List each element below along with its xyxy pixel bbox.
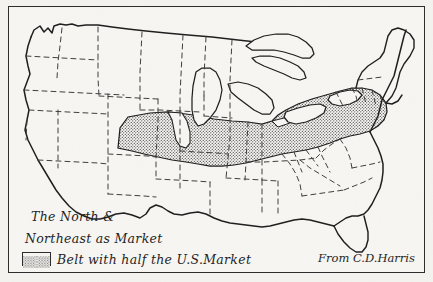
legend-line-3: Belt with half the U.S.Market bbox=[57, 252, 251, 267]
attribution-text: From C.D.Harris bbox=[318, 251, 415, 265]
florida-outline bbox=[334, 216, 368, 252]
legend-line-2: Northeast as Market bbox=[25, 231, 163, 246]
stipple-pattern-swatch bbox=[22, 252, 51, 266]
map-figure: The North & Northeast as Market Belt wit… bbox=[0, 0, 433, 282]
legend-line-1: The North & bbox=[31, 209, 115, 224]
